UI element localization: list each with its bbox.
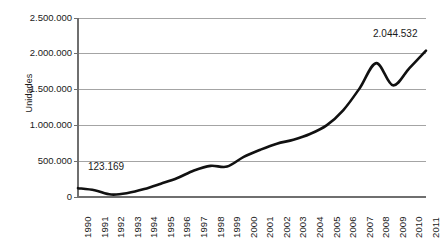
x-axis-tick-1999: 1999 <box>231 216 242 238</box>
data-label-1990: 123.169 <box>88 161 124 172</box>
x-axis-tick-1994: 1994 <box>148 216 159 238</box>
x-axis-tick-2008: 2008 <box>380 216 391 238</box>
x-axis-tick-2003: 2003 <box>297 216 308 238</box>
x-axis-tick-2006: 2006 <box>347 216 358 238</box>
x-axis-tick-2011: 2011 <box>430 217 441 238</box>
x-axis-tick-2005: 2005 <box>331 216 342 238</box>
x-axis-tick-2001: 2001 <box>264 216 275 238</box>
x-axis-tick-2009: 2009 <box>397 216 408 238</box>
x-axis-tick-1995: 1995 <box>165 216 176 238</box>
x-axis-tick-2002: 2002 <box>281 216 292 238</box>
x-axis-tick-1991: 1991 <box>99 216 110 238</box>
x-axis-tick-1997: 1997 <box>198 216 209 238</box>
x-axis-tick-1998: 1998 <box>215 216 226 238</box>
x-axis-tick-1993: 1993 <box>132 216 143 238</box>
x-axis-tick-1992: 1992 <box>115 216 126 238</box>
x-axis-tick-2004: 2004 <box>314 216 325 238</box>
x-axis-tick-1996: 1996 <box>181 216 192 238</box>
x-axis-tick-1990: 1990 <box>82 216 93 238</box>
x-axis-tick-2000: 2000 <box>248 216 259 238</box>
data-label-2011: 2.044.532 <box>373 28 418 39</box>
x-axis-tick-2010: 2010 <box>413 216 424 238</box>
x-axis-tick-2007: 2007 <box>364 216 375 238</box>
